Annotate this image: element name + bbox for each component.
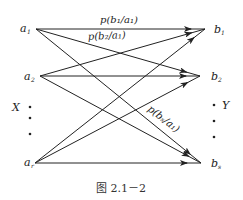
output-node-bs: b s (211, 157, 221, 170)
figure-caption: 图 2.1－2 (96, 182, 146, 195)
svg-text:r: r (31, 162, 35, 169)
svg-text:2: 2 (30, 76, 35, 83)
input-node-a1: a 1 (20, 22, 31, 35)
arrowhead-icon (185, 72, 187, 73)
edge-label-b2-a1: p(b₂/a₁) (88, 29, 127, 42)
svg-text:a: a (20, 22, 27, 35)
arrowhead-icon (189, 153, 191, 154)
transition-edges (35, 29, 205, 163)
svg-text:s: s (218, 163, 221, 170)
output-node-b1: b 1 (214, 23, 225, 36)
source-set-label: X (11, 101, 21, 114)
input-node-a2: a 2 (24, 70, 35, 83)
arrowhead-icon (190, 33, 192, 34)
edge-label-bs-a1: p(bₛ/a₁) (146, 103, 182, 135)
output-node-b2: b 2 (211, 70, 222, 83)
svg-text:b: b (211, 70, 218, 83)
sink-set-label: Y (222, 99, 231, 112)
arrowhead-icon (187, 155, 189, 156)
input-node-ar: a r (24, 156, 35, 169)
svg-text:2: 2 (217, 76, 222, 83)
svg-text:a: a (24, 70, 31, 83)
svg-text:1: 1 (221, 29, 225, 36)
edge-a2-bs (40, 76, 201, 163)
subscript: 1 (27, 28, 31, 35)
input-ellipsis-dots (29, 106, 32, 136)
output-ellipsis-dots (213, 104, 216, 139)
svg-text:a: a (24, 156, 31, 169)
channel-diagram: a 1 a 2 a r b 1 b 2 b s X Y (0, 0, 243, 200)
svg-text:b: b (214, 23, 221, 36)
edge-label-b1-a1: p(b₁/a₁) (100, 14, 138, 25)
svg-text:b: b (211, 157, 218, 170)
arrowhead-icon (192, 38, 194, 39)
arrowhead-icon (186, 83, 188, 84)
